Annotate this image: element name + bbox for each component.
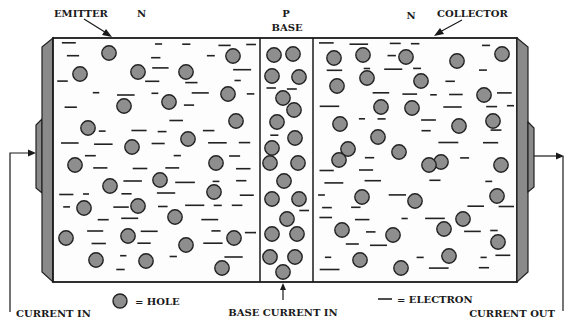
collector-hole [495,47,509,61]
collector-hole [490,189,504,203]
emitter-hole [131,65,145,79]
emitter-hole [73,67,87,81]
emitter-hole [207,185,221,199]
emitter-hole [59,231,73,245]
base-hole [287,103,301,117]
emitter-hole [117,99,131,113]
collector-hole [332,153,346,167]
legend-hole-icon [113,294,127,308]
base-hole [270,115,284,129]
collector-contact [528,122,534,192]
collector-hole [335,223,349,237]
collector-hole [414,74,428,88]
collector-label: COLLECTOR [437,8,508,19]
emitter-hole [102,46,116,60]
collector-hole [374,100,388,114]
base-hole [277,174,291,188]
base-hole [280,212,294,226]
emitter-hole [168,210,182,224]
emitter-side-face [42,38,53,282]
collector-hole [456,212,470,226]
collector-hole [353,253,367,267]
collector-hole [371,130,385,144]
emitter-hole [215,261,229,275]
current-in-label: CURRENT IN [16,308,91,319]
base-hole [265,227,279,241]
base-hole [288,250,302,264]
emitter-hole [179,238,193,252]
collector-hole [437,222,451,236]
legend-electron-label: = ELECTRON [397,294,473,305]
collector-hole [394,261,408,275]
emitter-label: EMITTER [54,8,109,19]
base-type-label: P [282,8,290,19]
base-hole [265,69,279,83]
base-hole [291,156,305,170]
base-label: BASE [271,22,302,33]
base-hole [276,265,290,279]
emitter-hole [181,132,195,146]
current-in-arrowhead [28,150,36,157]
collector-hole [386,228,400,242]
base-hole [292,70,306,84]
collector-hole [333,117,347,131]
emitter-hole [221,87,235,101]
base-current-in-label: BASE CURRENT IN [228,307,337,318]
base-hole [276,91,290,105]
base-hole [286,47,300,61]
emitter-hole [89,253,103,267]
collector-hole [330,79,344,93]
collector-hole [491,235,505,249]
collector-hole [422,158,436,172]
emitter-hole [226,49,240,63]
collector-pointer-arrowhead [434,28,444,36]
collector-hole [327,51,341,65]
collector-hole [392,145,406,159]
emitter-hole [139,254,153,268]
base-current-arrowhead [280,283,286,290]
collector-side-face [517,38,528,282]
emitter-hole [153,173,167,187]
emitter-hole [103,179,117,193]
base-hole [263,250,277,264]
base-hole [263,156,277,170]
npn-transistor-diagram: EMITTER N P BASE N COLLECTOR = HOLE = EL… [0,0,569,326]
base-hole [267,48,281,62]
collector-hole [494,158,508,172]
collector-hole [356,48,370,62]
collector-hole [486,114,500,128]
emitter-hole [229,114,243,128]
collector-hole [450,54,464,68]
emitter-hole [162,95,176,109]
emitter-hole [68,158,82,172]
collector-type-label: N [406,10,415,21]
emitter-hole [179,65,193,79]
collector-hole [355,190,369,204]
base-hole [265,192,279,206]
collector-hole [477,88,491,102]
emitter-hole [81,121,95,135]
current-out-label: CURRENT OUT [469,308,555,319]
base-hole [292,192,306,206]
emitter-hole [121,229,135,243]
collector-hole [442,249,456,263]
collector-hole [360,71,374,85]
emitter-hole [227,231,241,245]
current-in-wire [10,153,30,312]
collector-hole [452,119,466,133]
base-hole [265,141,279,155]
emitter-contact [36,119,42,193]
emitter-hole [209,156,223,170]
emitter-type-label: N [137,8,146,19]
emitter-pointer-arrowhead [102,29,112,37]
collector-hole [408,194,422,208]
emitter-hole [77,201,91,215]
base-hole [288,131,302,145]
base-hole [290,227,304,241]
legend-hole-label: = HOLE [135,296,180,307]
emitter-hole [125,140,139,154]
collector-hole [405,101,419,115]
emitter-hole [131,199,145,213]
collector-hole [399,50,413,64]
